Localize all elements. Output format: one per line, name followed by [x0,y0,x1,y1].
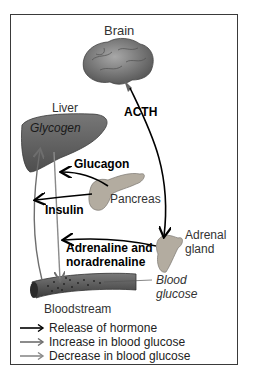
adrenal-gland-icon [157,235,183,272]
gray-arrow-icon [20,338,46,346]
pancreas-label: Pancreas [110,193,161,205]
glucagon-label: Glucagon [74,158,129,170]
legend-label: Release of hormone [49,322,157,334]
brain-label: Brain [104,24,134,37]
legend-item-increase: Increase in blood glucose [20,336,185,348]
bloodstream-label: Bloodstream [44,303,111,315]
legend-item-release: Release of hormone [20,322,157,334]
liver-label: Liver [52,102,78,114]
insulin-label: Insulin [45,204,84,216]
adrenal-label-line1: Adrenal [185,229,226,241]
light-gray-arrow-icon [20,352,46,360]
blood-glucose-label-line1: Blood [156,274,187,286]
adrenal-label-line2: gland [185,243,214,255]
bloodstream-icon [30,273,152,298]
legend-label: Decrease in blood glucose [49,350,190,362]
glycogen-label: Glycogen [30,122,81,134]
adrenaline-label-line1: Adrenaline and [66,242,153,254]
black-arrow-icon [20,324,46,332]
insulin-arrow [36,194,92,200]
legend-item-decrease: Decrease in blood glucose [20,350,190,362]
acth-label: ACTH [124,106,157,118]
brain-icon [83,38,153,92]
adrenaline-label-line2: noradrenaline [66,256,145,268]
blood-glucose-label-line2: glucose [156,288,197,300]
legend-label: Increase in blood glucose [49,336,185,348]
